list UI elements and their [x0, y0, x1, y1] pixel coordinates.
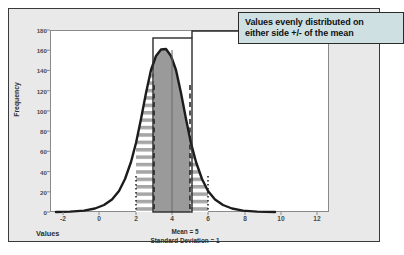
y-tick-40: 40 — [40, 168, 47, 175]
x-tick-labels: -2 0 2 4 6 8 10 12 — [0, 215, 404, 227]
screenshot-root: 180 160 140 120 100 80 60 40 20 0 -2 0 2… — [0, 0, 404, 255]
x-tick-0: 0 — [97, 215, 101, 222]
x-tick-minus2: -2 — [60, 215, 66, 222]
y-tick-80: 80 — [40, 128, 47, 135]
y-tick-180: 180 — [37, 27, 47, 34]
callout-line-1: Values evenly distributed on — [245, 17, 398, 28]
x-tick-12: 12 — [313, 215, 320, 222]
x-tick-10: 10 — [277, 215, 284, 222]
y-axis-label: Frequency — [13, 70, 20, 130]
x-tick-2: 2 — [134, 215, 138, 222]
callout-box: Values evenly distributed on either side… — [238, 12, 404, 44]
mean-text: Mean = 5 — [120, 227, 250, 236]
y-tick-120: 120 — [37, 87, 47, 94]
x-tick-8: 8 — [243, 215, 247, 222]
y-tick-20: 20 — [40, 188, 47, 195]
y-tick-160: 160 — [37, 47, 47, 54]
x-tick-4: 4 — [170, 215, 174, 222]
callout-line-2: either side +/- of the mean — [245, 28, 398, 39]
y-tick-60: 60 — [40, 148, 47, 155]
x-tick-6: 6 — [206, 215, 210, 222]
y-tick-100: 100 — [37, 107, 47, 114]
y-tick-140: 140 — [37, 67, 47, 74]
x-axis-label: Values — [36, 229, 59, 238]
y-axis-ticks — [47, 30, 50, 212]
standard-deviation-text: Standard Deviation = 1 — [120, 236, 250, 245]
distribution-stats: Mean = 5 Standard Deviation = 1 — [120, 227, 250, 245]
